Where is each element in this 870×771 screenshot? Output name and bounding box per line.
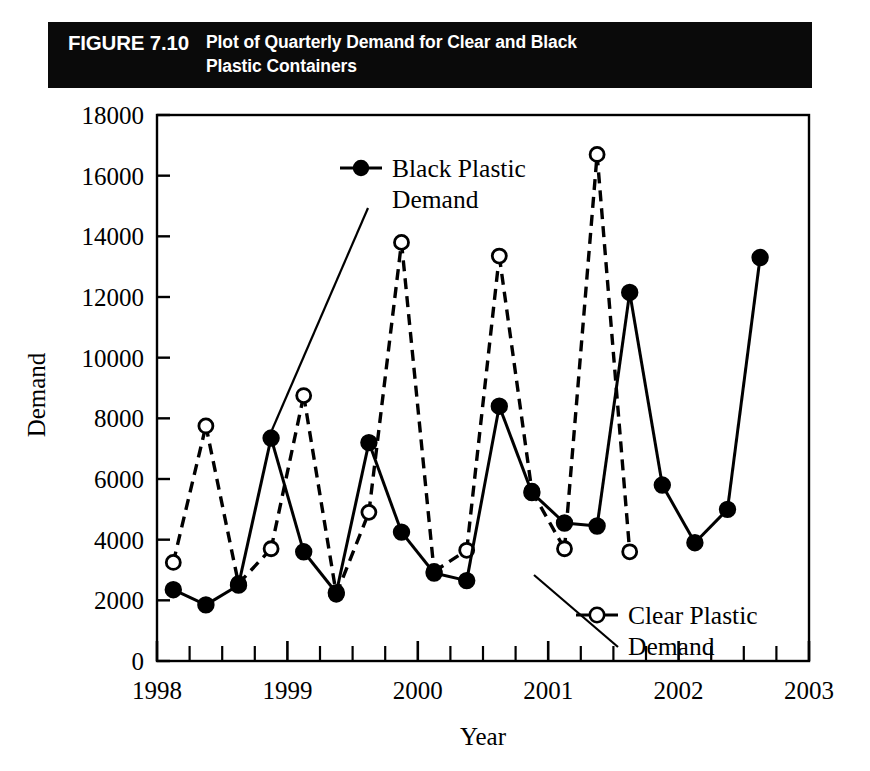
data-point-open-circle-icon (590, 147, 604, 161)
data-point-open-circle-icon (492, 249, 506, 263)
x-axis-title: Year (460, 723, 507, 750)
data-point-filled-circle-icon (524, 485, 539, 500)
data-point-filled-circle-icon (720, 502, 735, 517)
data-point-filled-circle-icon (264, 430, 279, 445)
figure-title-line-2: Plastic Containers (206, 55, 766, 79)
legend-clear-label-line-2: Demand (628, 632, 715, 661)
y-tick-label: 8000 (94, 405, 144, 432)
y-tick-label: 10000 (82, 345, 145, 372)
y-tick-label: 18000 (82, 102, 145, 129)
y-tick-label: 12000 (82, 284, 145, 311)
caption-inner: FIGURE 7.10Plot of Quarterly Demand for … (68, 31, 804, 78)
x-tick-label: 2003 (784, 677, 834, 704)
data-point-filled-circle-icon (394, 524, 409, 539)
y-tick-label: 14000 (82, 223, 145, 250)
data-point-open-circle-icon (297, 389, 311, 403)
data-point-filled-circle-icon (361, 435, 376, 450)
x-tick-label: 2001 (523, 677, 573, 704)
y-axis-title: Demand (23, 352, 50, 437)
data-point-open-circle-icon (395, 235, 409, 249)
figure-title-line-1: Plot of Quarterly Demand for Clear and B… (206, 32, 577, 52)
data-point-open-circle-icon (199, 419, 213, 433)
y-tick-label: 6000 (94, 466, 144, 493)
data-point-filled-circle-icon (166, 582, 181, 597)
legend-black-marker-filled-circle-icon (354, 161, 368, 175)
data-point-filled-circle-icon (198, 597, 213, 612)
data-point-open-circle-icon (166, 555, 180, 569)
data-point-filled-circle-icon (296, 544, 311, 559)
y-tick-label: 0 (132, 648, 145, 675)
legend-black-label-line-1: Black Plastic (392, 154, 526, 183)
legend-black-label-line-2: Demand (392, 185, 479, 214)
quarterly-demand-line-chart: 0200040006000800010000120001400016000180… (0, 95, 870, 771)
data-point-filled-circle-icon (329, 585, 344, 600)
x-tick-label: 1999 (262, 677, 312, 704)
y-tick-label: 16000 (82, 163, 145, 190)
data-point-filled-circle-icon (459, 573, 474, 588)
data-point-filled-circle-icon (427, 565, 442, 580)
data-point-filled-circle-icon (492, 399, 507, 414)
legend-clear-label-line-1: Clear Plastic (628, 601, 758, 630)
figure-title-text: Plot of Quarterly Demand for Clear and B… (206, 31, 766, 78)
figure-caption-banner: FIGURE 7.10Plot of Quarterly Demand for … (48, 22, 812, 88)
data-point-open-circle-icon (623, 545, 637, 559)
data-point-filled-circle-icon (622, 285, 637, 300)
data-point-filled-circle-icon (590, 518, 605, 533)
x-tick-label: 2002 (654, 677, 704, 704)
x-tick-label: 1998 (132, 677, 182, 704)
legend-clear-marker-open-circle-icon (590, 608, 604, 622)
chart-region: 0200040006000800010000120001400016000180… (0, 95, 870, 771)
data-point-filled-circle-icon (655, 477, 670, 492)
data-point-filled-circle-icon (753, 250, 768, 265)
data-point-open-circle-icon (362, 505, 376, 519)
x-tick-label: 2000 (393, 677, 443, 704)
data-point-filled-circle-icon (687, 535, 702, 550)
y-tick-label: 2000 (94, 587, 144, 614)
y-tick-label: 4000 (94, 527, 144, 554)
data-point-open-circle-icon (264, 542, 278, 556)
data-point-filled-circle-icon (231, 578, 246, 593)
data-point-filled-circle-icon (557, 515, 572, 530)
data-point-open-circle-icon (558, 542, 572, 556)
figure-number-label: FIGURE 7.10 (68, 31, 206, 55)
